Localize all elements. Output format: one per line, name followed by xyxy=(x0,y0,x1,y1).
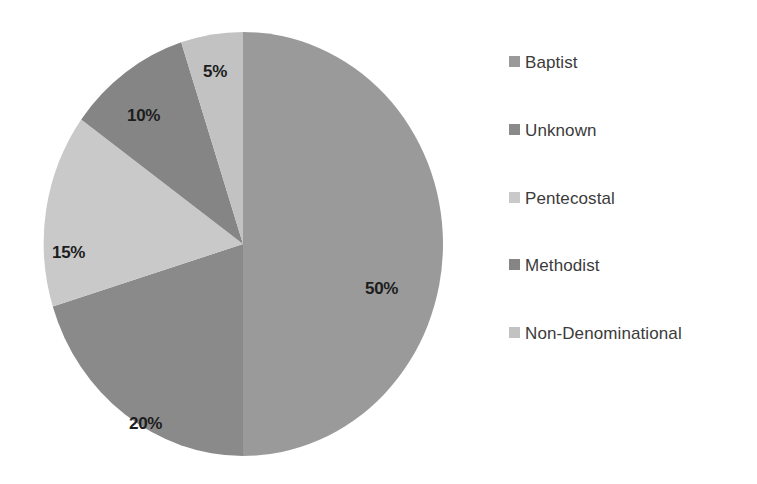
legend-item-baptist[interactable]: Baptist xyxy=(509,52,749,74)
pie-label-unknown: 20% xyxy=(129,415,162,432)
pie-label-baptist: 50% xyxy=(365,280,398,297)
legend-label-non-denominational: Non-Denominational xyxy=(525,323,682,345)
legend-label-baptist: Baptist xyxy=(525,52,578,74)
pie-label-pentecostal: 15% xyxy=(52,244,85,261)
legend-swatch-icon xyxy=(509,124,520,135)
legend-label-pentecostal: Pentecostal xyxy=(525,188,615,210)
chart-legend: Baptist Unknown Pentecostal Methodist No… xyxy=(509,52,749,345)
legend-item-pentecostal[interactable]: Pentecostal xyxy=(509,188,749,210)
legend-swatch-icon xyxy=(509,259,520,270)
legend-label-unknown: Unknown xyxy=(525,120,597,142)
pie-chart-svg xyxy=(43,32,443,456)
legend-swatch-icon xyxy=(509,56,520,67)
legend-item-methodist[interactable]: Methodist xyxy=(509,255,749,277)
legend-swatch-icon xyxy=(509,192,520,203)
legend-label-methodist: Methodist xyxy=(525,255,600,277)
legend-item-unknown[interactable]: Unknown xyxy=(509,120,749,142)
legend-item-non-denominational[interactable]: Non-Denominational xyxy=(509,323,749,345)
pie-chart-page: 50% 20% 15% 10% 5% Baptist Unknown Pente… xyxy=(0,0,757,484)
legend-swatch-icon xyxy=(509,327,520,338)
pie-label-non-denominational: 5% xyxy=(203,63,227,80)
pie-chart: 50% 20% 15% 10% 5% xyxy=(43,32,443,456)
pie-label-methodist: 10% xyxy=(127,107,160,124)
pie-slice-baptist[interactable] xyxy=(243,32,443,456)
